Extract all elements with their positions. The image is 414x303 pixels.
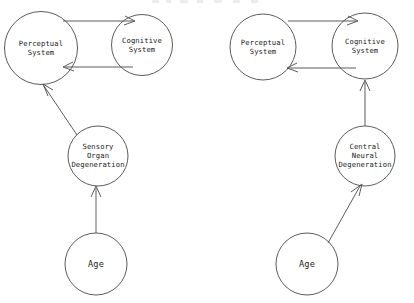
node-circle-left-age[interactable] (65, 233, 127, 295)
node-circle-right-central-neural-degeneration[interactable] (335, 126, 395, 186)
left-model-group (5, 12, 173, 296)
diagram-canvas: Perceptual System Cognitive System Senso… (0, 0, 414, 303)
arrowhead-right-cognitive-to-perceptual (287, 63, 298, 72)
node-circle-left-cognitive[interactable] (112, 15, 173, 76)
right-model-group (230, 13, 398, 295)
arrowhead-left-degeneration-to-perceptual (43, 84, 53, 96)
edge-left-degeneration-to-perceptual (44, 86, 77, 135)
edge-right-age-to-degeneration (328, 186, 360, 243)
node-circle-right-perceptual[interactable] (230, 14, 296, 80)
node-circle-left-perceptual[interactable] (5, 12, 78, 85)
diagram-vector-layer (0, 0, 414, 303)
node-circle-right-cognitive[interactable] (332, 13, 398, 79)
